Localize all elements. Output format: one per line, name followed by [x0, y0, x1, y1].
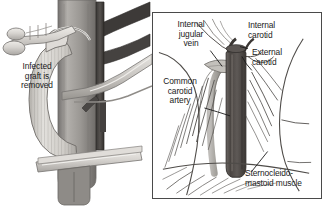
left-panel-illustration [0, 0, 152, 211]
label-sternocleidomastoid-muscle: Sternocleido- mastoid muscle [245, 169, 325, 188]
label-common-carotid-artery: Common carotid artery [152, 77, 208, 106]
lower-vessel-stump [58, 166, 90, 205]
left-panel-graft-removal: Infected graft is removed [0, 0, 152, 211]
label-internal-jugular-vein: Internal jugular vein [163, 20, 219, 49]
label-infected-graft: Infected graft is removed [6, 62, 68, 91]
label-external-carotid: External carotid [252, 48, 312, 67]
medical-figure: Infected graft is removed [0, 0, 327, 211]
label-internal-carotid: Internal carotid [248, 21, 308, 40]
